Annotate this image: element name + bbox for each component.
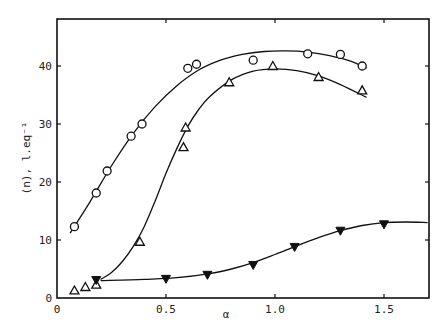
fit-curve-1 — [101, 69, 367, 280]
x-tick-label: 1.5 — [374, 303, 394, 316]
fit-curve-2 — [101, 222, 428, 281]
data-markers — [70, 50, 389, 294]
circle-marker — [138, 120, 146, 128]
circle-marker — [127, 132, 135, 140]
x-tick-label: 0 — [54, 303, 61, 316]
triangle-marker — [179, 143, 188, 151]
inverted-triangle-marker — [249, 261, 258, 269]
circle-marker — [358, 62, 366, 70]
inverted-triangle-marker — [380, 221, 389, 229]
triangle-marker — [358, 86, 367, 94]
inverted-triangle-marker — [203, 271, 212, 279]
y-tick-label: 10 — [39, 234, 52, 247]
chart: 00.51.01.5 010203040 α (n), l.eq⁻¹ — [0, 0, 448, 330]
y-tick-label: 20 — [39, 176, 52, 189]
y-tick-label: 40 — [39, 60, 52, 73]
circle-marker — [304, 50, 312, 58]
circle-marker — [184, 64, 192, 72]
inverted-triangle-marker — [92, 277, 101, 285]
y-tick-label: 0 — [45, 292, 52, 305]
x-axis-title: α — [223, 308, 230, 321]
circle-marker — [193, 60, 201, 68]
circle-marker — [103, 167, 111, 175]
x-tick-label: 1.0 — [265, 303, 285, 316]
circle-marker — [249, 56, 257, 64]
fit-curves — [70, 51, 428, 281]
circle-marker — [92, 189, 100, 197]
x-tick-label: 0.5 — [156, 303, 176, 316]
plot-frame — [57, 19, 429, 298]
inverted-triangle-marker — [162, 275, 171, 283]
circle-marker — [70, 223, 78, 231]
triangle-marker — [70, 286, 79, 294]
triangle-marker — [81, 282, 90, 290]
y-axis-title: (n), l.eq⁻¹ — [20, 122, 33, 195]
triangle-marker — [268, 62, 277, 70]
y-tick-label: 30 — [39, 118, 52, 131]
circle-marker — [336, 50, 344, 58]
